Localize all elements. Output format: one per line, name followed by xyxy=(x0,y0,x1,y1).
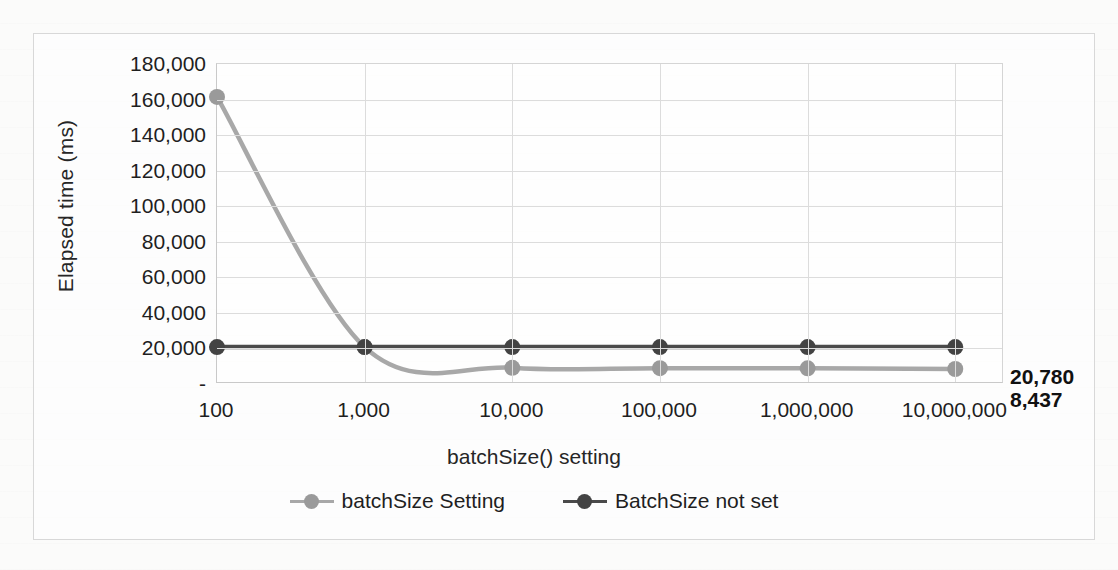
x-axis-tick-label: 100 xyxy=(198,398,233,422)
y-gridline xyxy=(217,206,1002,207)
y-gridline xyxy=(217,100,1002,101)
x-axis-tick-label: 10,000 xyxy=(479,398,543,422)
y-gridline xyxy=(217,348,1002,349)
plot-area xyxy=(216,63,1003,383)
legend-marker-icon xyxy=(290,493,334,509)
x-gridline xyxy=(365,64,366,382)
y-axis-tick-label: 100,000 xyxy=(56,195,206,216)
x-gridline xyxy=(512,64,513,382)
series-canvas xyxy=(217,64,1004,384)
legend-label: BatchSize not set xyxy=(615,489,778,513)
x-gridline xyxy=(808,64,809,382)
x-gridline xyxy=(955,64,956,382)
x-axis-tick-label: 1,000,000 xyxy=(760,398,853,422)
x-axis-tick-labels: 1001,00010,000100,0001,000,00010,000,000 xyxy=(216,398,1003,428)
chart-container: Elapsed time (ms) 180,000160,000140,0001… xyxy=(33,33,1095,540)
series-line-1 xyxy=(217,97,955,373)
x-axis-tick-label: 10,000,000 xyxy=(902,398,1007,422)
data-point xyxy=(209,339,225,355)
legend-label: batchSize Setting xyxy=(342,489,505,513)
y-gridline xyxy=(217,171,1002,172)
y-gridline xyxy=(217,135,1002,136)
y-axis-tick-label: 180,000 xyxy=(56,53,206,74)
y-gridline xyxy=(217,277,1002,278)
data-label-batchsize-setting: 8,437 xyxy=(1010,389,1063,410)
y-axis-tick-label: 40,000 xyxy=(56,301,206,322)
legend-entry-1[interactable]: batchSize Setting xyxy=(290,489,505,513)
x-axis-title: batchSize() setting xyxy=(34,445,1034,469)
y-axis-tick-label: 80,000 xyxy=(56,230,206,251)
y-axis-tick-label: - xyxy=(56,373,206,394)
y-axis-tick-label: 120,000 xyxy=(56,159,206,180)
y-axis-tick-label: 140,000 xyxy=(56,124,206,145)
y-gridline xyxy=(217,313,1002,314)
y-gridline xyxy=(217,242,1002,243)
y-axis-tick-label: 160,000 xyxy=(56,88,206,109)
y-axis-tick-label: 60,000 xyxy=(56,266,206,287)
chart-legend: batchSize SettingBatchSize not set xyxy=(34,489,1034,513)
data-label-batchsize-not-set: 20,780 xyxy=(1010,366,1074,387)
data-point xyxy=(209,89,225,105)
x-gridline xyxy=(660,64,661,382)
y-axis-tick-label: 20,000 xyxy=(56,337,206,358)
legend-entry-2[interactable]: BatchSize not set xyxy=(563,489,778,513)
x-axis-tick-label: 100,000 xyxy=(621,398,697,422)
x-axis-tick-label: 1,000 xyxy=(337,398,390,422)
legend-marker-icon xyxy=(563,493,607,509)
